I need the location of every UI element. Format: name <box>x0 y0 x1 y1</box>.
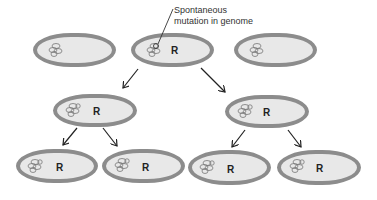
genome-icon <box>113 157 131 173</box>
callout-line-1: Spontaneous <box>174 5 253 16</box>
resistance-label: R <box>263 108 270 118</box>
genome-icon <box>64 102 82 118</box>
genome-icon <box>26 158 44 174</box>
cell-bottom-1: R <box>16 149 98 183</box>
genome-icon <box>145 42 163 58</box>
genome-icon <box>248 42 266 58</box>
resistance-label: R <box>171 46 178 56</box>
arrow-icon <box>201 68 225 92</box>
mutation-lineage-diagram: Spontaneous mutation in genome R <box>0 0 377 200</box>
genome-icon <box>288 158 306 174</box>
genome-icon <box>236 103 254 119</box>
cell-bottom-3: R <box>188 150 271 185</box>
cell-bottom-2: R <box>102 149 185 183</box>
cell-bottom-4: R <box>277 150 361 185</box>
cell-middle-right: R <box>225 95 309 128</box>
resistance-label: R <box>142 163 149 173</box>
genome-icon <box>47 42 65 58</box>
arrow-icon <box>288 130 301 147</box>
resistance-label: R <box>316 164 323 174</box>
resistance-label: R <box>56 163 63 173</box>
cell-middle-left: R <box>53 94 137 127</box>
callout-line-2: mutation in genome <box>174 16 253 27</box>
cell-top-middle: R <box>131 33 214 67</box>
cell-top-right <box>234 33 317 67</box>
genome-icon <box>198 159 216 175</box>
resistance-label: R <box>93 107 100 117</box>
cell-top-left <box>33 33 116 67</box>
arrow-icon <box>63 128 77 145</box>
arrow-icon <box>232 130 245 147</box>
mutation-callout: Spontaneous mutation in genome <box>174 5 253 27</box>
arrow-icon <box>123 69 138 88</box>
arrow-icon <box>103 128 117 146</box>
resistance-label: R <box>227 165 234 175</box>
